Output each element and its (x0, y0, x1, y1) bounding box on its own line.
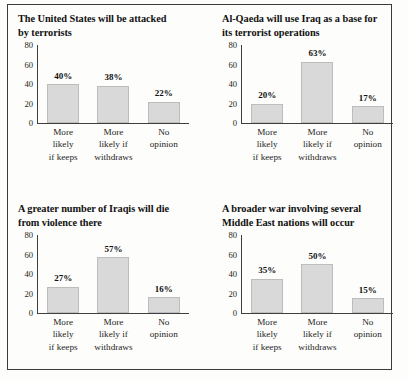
y-axis-tick-label: 60 (24, 60, 33, 69)
x-axis-category-label: Noopinion (139, 126, 189, 151)
chart-title-line-2: its terrorist operations (222, 27, 320, 38)
category-label-line-1: No (343, 316, 393, 328)
bar-value-label: 22% (139, 89, 189, 98)
y-axis-tick-label: 80 (228, 231, 237, 240)
y-axis-ticks: 806040200 (222, 235, 240, 313)
chart-panel-chart-broader-war: A broader war involving severalMiddle Ea… (204, 190, 408, 380)
y-axis-tick-label: 80 (24, 231, 33, 240)
x-axis-category-label: Morelikely ifwithdraws (292, 126, 342, 163)
category-label-line-2: opinion (139, 328, 189, 340)
y-axis-tick-label: 60 (228, 250, 237, 259)
y-axis-ticks: 806040200 (222, 45, 240, 123)
bar-slot: 16% (139, 235, 189, 313)
y-axis-tick-label: 40 (228, 80, 237, 89)
bar-value-label: 38% (88, 73, 138, 82)
x-axis-category-labels: Morelikelyif keepsMorelikely ifwithdraws… (38, 126, 189, 168)
chart-grid: The United States will be attackedby ter… (0, 0, 408, 380)
category-label-line-3: withdraws (88, 341, 138, 353)
category-label-line-2: likely if (292, 328, 342, 340)
bar-value-label: 40% (38, 72, 88, 81)
plot-area: 80604020035%50%15% (222, 235, 394, 313)
bar-slot: 22% (139, 45, 189, 123)
x-axis-category-label: Morelikely ifwithdraws (88, 126, 138, 163)
bar (148, 297, 180, 313)
x-axis-category-label: Morelikelyif keeps (38, 126, 88, 163)
category-label-line-3: withdraws (292, 341, 342, 353)
plot-area: 80604020020%63%17% (222, 45, 394, 123)
x-axis-category-labels: Morelikelyif keepsMorelikely ifwithdraws… (242, 126, 393, 168)
chart-title-line-1: A greater number of Iraqis will die (18, 203, 169, 214)
bar-value-label: 17% (343, 94, 393, 103)
category-label-line-1: More (292, 316, 342, 328)
bar-value-label: 20% (242, 91, 292, 100)
y-axis-tick-label: 0 (29, 119, 33, 128)
bar-slot: 15% (343, 235, 393, 313)
y-axis-tick-label: 0 (29, 309, 33, 318)
category-label-line-1: More (242, 126, 292, 138)
bar-series: 35%50%15% (242, 235, 393, 313)
y-axis-tick-label: 20 (24, 99, 33, 108)
bar-slot: 40% (38, 45, 88, 123)
category-label-line-3: if keeps (242, 341, 292, 353)
y-axis-tick-label: 40 (24, 80, 33, 89)
x-axis-category-label: Morelikely ifwithdraws (88, 316, 138, 353)
y-axis-tick-label: 80 (228, 41, 237, 50)
bar-value-label: 50% (292, 252, 342, 261)
bar (97, 86, 129, 123)
bar (352, 106, 384, 123)
x-axis-category-label: Morelikely ifwithdraws (292, 316, 342, 353)
bar-slot: 35% (242, 235, 292, 313)
category-label-line-1: More (38, 126, 88, 138)
bar (47, 84, 79, 123)
category-label-line-2: opinion (343, 138, 393, 150)
chart-panel-chart-alqaeda-base: Al-Qaeda will use Iraq as a base forits … (204, 0, 408, 190)
bar (251, 279, 283, 313)
category-label-line-1: More (242, 316, 292, 328)
x-axis-category-label: Morelikelyif keeps (242, 316, 292, 353)
chart-title-line-1: The United States will be attacked (18, 13, 166, 24)
category-label-line-1: More (88, 126, 138, 138)
chart-title-line-2: from violence there (18, 217, 102, 228)
category-label-line-3: if keeps (38, 151, 88, 163)
x-axis-category-label: Morelikelyif keeps (38, 316, 88, 353)
bar-series: 20%63%17% (242, 45, 393, 123)
bar-slot: 63% (292, 45, 342, 123)
category-label-line-1: More (292, 126, 342, 138)
y-axis-ticks: 806040200 (18, 235, 36, 313)
x-axis-line (241, 313, 393, 314)
x-axis-category-labels: Morelikelyif keepsMorelikely ifwithdraws… (38, 316, 189, 358)
bar-slot: 27% (38, 235, 88, 313)
category-label-line-3: if keeps (38, 341, 88, 353)
category-label-line-3: if keeps (242, 151, 292, 163)
bar-slot: 20% (242, 45, 292, 123)
x-axis-category-label: Noopinion (343, 126, 393, 151)
chart-title: The United States will be attackedby ter… (18, 12, 196, 39)
category-label-line-1: No (139, 126, 189, 138)
category-label-line-2: likely (242, 328, 292, 340)
y-axis-tick-label: 40 (24, 270, 33, 279)
bar (301, 264, 333, 313)
chart-title: A greater number of Iraqis will diefrom … (18, 202, 196, 229)
chart-title-line-2: by terrorists (18, 27, 72, 38)
chart-title-line-1: Al-Qaeda will use Iraq as a base for (222, 13, 377, 24)
bar-series: 27%57%16% (38, 235, 189, 313)
bar-value-label: 35% (242, 266, 292, 275)
plot-area: 80604020027%57%16% (18, 235, 190, 313)
y-axis-tick-label: 20 (228, 99, 237, 108)
y-axis-tick-label: 20 (228, 289, 237, 298)
y-axis-tick-label: 20 (24, 289, 33, 298)
chart-panel-chart-terrorist-attack: The United States will be attackedby ter… (0, 0, 204, 190)
bar-value-label: 63% (292, 49, 342, 58)
scanned-page: The United States will be attackedby ter… (0, 0, 408, 380)
y-axis-tick-label: 0 (233, 309, 237, 318)
bar (251, 104, 283, 124)
category-label-line-2: likely (38, 328, 88, 340)
category-label-line-2: opinion (343, 328, 393, 340)
category-label-line-1: More (38, 316, 88, 328)
category-label-line-1: More (88, 316, 138, 328)
x-axis-category-label: Noopinion (139, 316, 189, 341)
y-axis-tick-label: 60 (24, 250, 33, 259)
category-label-line-2: opinion (139, 138, 189, 150)
bar-slot: 17% (343, 45, 393, 123)
x-axis-category-label: Morelikelyif keeps (242, 126, 292, 163)
